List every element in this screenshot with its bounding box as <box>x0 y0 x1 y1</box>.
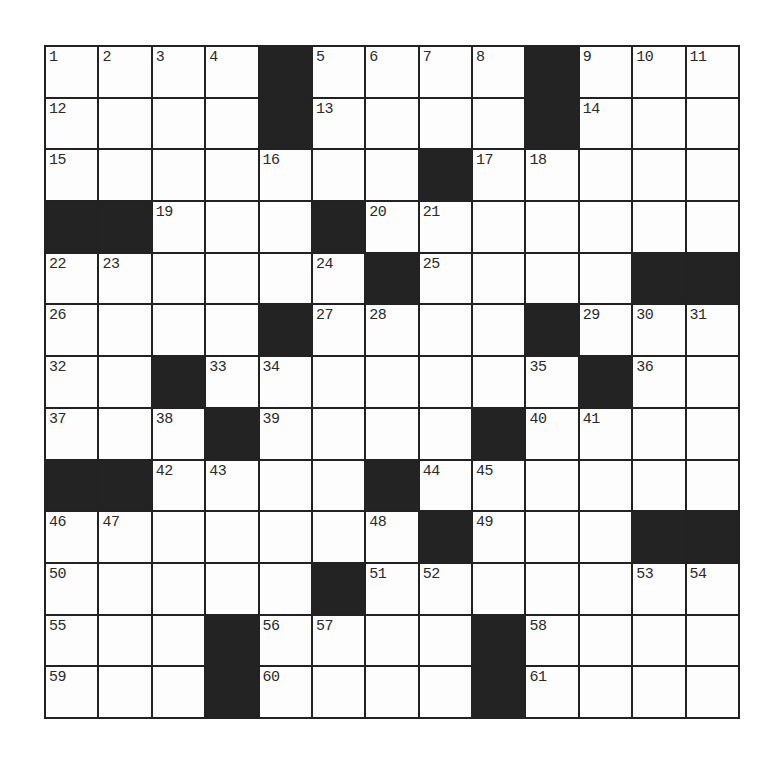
grid-cell[interactable] <box>206 564 257 614</box>
grid-cell[interactable] <box>366 409 417 459</box>
grid-cell[interactable] <box>473 305 524 355</box>
grid-cell[interactable]: 16 <box>260 150 311 200</box>
grid-cell[interactable] <box>153 616 204 666</box>
grid-cell[interactable] <box>206 99 257 149</box>
grid-cell[interactable]: 47 <box>99 512 150 562</box>
grid-cell[interactable]: 4 <box>206 47 257 97</box>
grid-cell[interactable]: 36 <box>633 357 684 407</box>
grid-cell[interactable]: 25 <box>420 254 471 304</box>
grid-cell[interactable]: 57 <box>313 616 364 666</box>
grid-cell[interactable]: 51 <box>366 564 417 614</box>
grid-cell[interactable]: 15 <box>46 150 97 200</box>
grid-cell[interactable] <box>633 461 684 511</box>
grid-cell[interactable]: 12 <box>46 99 97 149</box>
grid-cell[interactable]: 34 <box>260 357 311 407</box>
grid-cell[interactable] <box>473 254 524 304</box>
grid-cell[interactable] <box>580 202 631 252</box>
grid-cell[interactable] <box>633 202 684 252</box>
grid-cell[interactable] <box>99 357 150 407</box>
grid-cell[interactable]: 33 <box>206 357 257 407</box>
grid-cell[interactable]: 44 <box>420 461 471 511</box>
grid-cell[interactable] <box>580 461 631 511</box>
grid-cell[interactable]: 20 <box>366 202 417 252</box>
grid-cell[interactable] <box>99 99 150 149</box>
grid-cell[interactable] <box>99 667 150 717</box>
grid-cell[interactable] <box>313 667 364 717</box>
grid-cell[interactable]: 41 <box>580 409 631 459</box>
grid-cell[interactable]: 37 <box>46 409 97 459</box>
grid-cell[interactable] <box>99 305 150 355</box>
grid-cell[interactable]: 24 <box>313 254 364 304</box>
grid-cell[interactable] <box>99 616 150 666</box>
grid-cell[interactable]: 1 <box>46 47 97 97</box>
grid-cell[interactable]: 6 <box>366 47 417 97</box>
grid-cell[interactable]: 14 <box>580 99 631 149</box>
grid-cell[interactable] <box>420 409 471 459</box>
grid-cell[interactable]: 50 <box>46 564 97 614</box>
grid-cell[interactable]: 60 <box>260 667 311 717</box>
grid-cell[interactable] <box>260 461 311 511</box>
grid-cell[interactable] <box>420 357 471 407</box>
grid-cell[interactable]: 35 <box>526 357 577 407</box>
grid-cell[interactable] <box>580 667 631 717</box>
grid-cell[interactable] <box>153 305 204 355</box>
grid-cell[interactable]: 48 <box>366 512 417 562</box>
grid-cell[interactable]: 2 <box>99 47 150 97</box>
grid-cell[interactable] <box>260 512 311 562</box>
grid-cell[interactable] <box>366 616 417 666</box>
grid-cell[interactable] <box>99 409 150 459</box>
grid-cell[interactable]: 9 <box>580 47 631 97</box>
grid-cell[interactable] <box>366 99 417 149</box>
grid-cell[interactable] <box>687 616 738 666</box>
grid-cell[interactable] <box>153 512 204 562</box>
grid-cell[interactable] <box>687 99 738 149</box>
grid-cell[interactable] <box>526 512 577 562</box>
grid-cell[interactable]: 52 <box>420 564 471 614</box>
grid-cell[interactable]: 49 <box>473 512 524 562</box>
grid-cell[interactable] <box>580 254 631 304</box>
grid-cell[interactable] <box>313 357 364 407</box>
grid-cell[interactable]: 21 <box>420 202 471 252</box>
grid-cell[interactable] <box>580 512 631 562</box>
grid-cell[interactable]: 32 <box>46 357 97 407</box>
grid-cell[interactable] <box>153 667 204 717</box>
grid-cell[interactable]: 31 <box>687 305 738 355</box>
grid-cell[interactable] <box>260 564 311 614</box>
grid-cell[interactable]: 46 <box>46 512 97 562</box>
grid-cell[interactable] <box>580 616 631 666</box>
grid-cell[interactable] <box>687 667 738 717</box>
grid-cell[interactable] <box>153 150 204 200</box>
grid-cell[interactable]: 28 <box>366 305 417 355</box>
grid-cell[interactable] <box>687 357 738 407</box>
grid-cell[interactable]: 27 <box>313 305 364 355</box>
grid-cell[interactable] <box>526 564 577 614</box>
grid-cell[interactable] <box>153 99 204 149</box>
grid-cell[interactable]: 10 <box>633 47 684 97</box>
grid-cell[interactable] <box>526 461 577 511</box>
grid-cell[interactable]: 5 <box>313 47 364 97</box>
grid-cell[interactable] <box>313 150 364 200</box>
grid-cell[interactable]: 58 <box>526 616 577 666</box>
grid-cell[interactable]: 43 <box>206 461 257 511</box>
grid-cell[interactable] <box>313 512 364 562</box>
grid-cell[interactable] <box>313 461 364 511</box>
grid-cell[interactable] <box>633 616 684 666</box>
grid-cell[interactable] <box>99 150 150 200</box>
grid-cell[interactable] <box>206 150 257 200</box>
grid-cell[interactable] <box>473 99 524 149</box>
grid-cell[interactable] <box>206 305 257 355</box>
grid-cell[interactable]: 40 <box>526 409 577 459</box>
grid-cell[interactable] <box>99 564 150 614</box>
grid-cell[interactable]: 42 <box>153 461 204 511</box>
grid-cell[interactable] <box>580 564 631 614</box>
grid-cell[interactable] <box>153 564 204 614</box>
grid-cell[interactable] <box>473 564 524 614</box>
grid-cell[interactable]: 56 <box>260 616 311 666</box>
grid-cell[interactable] <box>420 667 471 717</box>
grid-cell[interactable]: 54 <box>687 564 738 614</box>
grid-cell[interactable]: 39 <box>260 409 311 459</box>
grid-cell[interactable]: 59 <box>46 667 97 717</box>
grid-cell[interactable]: 13 <box>313 99 364 149</box>
grid-cell[interactable] <box>633 150 684 200</box>
grid-cell[interactable]: 22 <box>46 254 97 304</box>
